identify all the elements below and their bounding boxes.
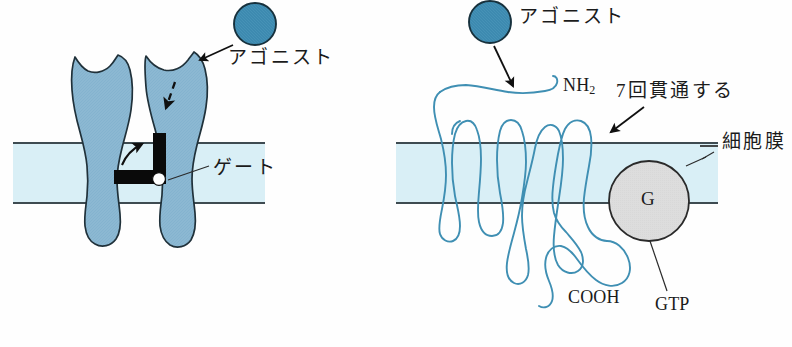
label-cell-membrane: 細胞膜 [722,132,786,151]
label-gtp: GTP [655,295,690,313]
label-c-terminus: COOH [568,288,620,306]
label-seven-pass: 7回貫通する [616,81,734,100]
agonist-molecule-right [469,1,511,43]
seven-pass-leader-arrow [611,107,644,132]
label-n-terminus-subscript: 2 [589,83,595,97]
gtp-leader-line [650,241,667,291]
agonist-leader-arrow-right [494,46,513,86]
label-n-terminus-text: NH [563,75,589,95]
label-agonist-right: アゴニスト [519,7,625,26]
label-n-terminus: NH2 [563,76,595,94]
label-g-protein: G [641,189,655,208]
agonist-molecule-left [234,3,276,45]
figure-canvas: アゴニスト ゲート アゴニスト NH2 7回貫通する 細胞膜 COOH GTP … [0,0,792,347]
label-agonist-left: アゴニスト [228,48,334,67]
label-gate: ゲート [213,158,277,177]
